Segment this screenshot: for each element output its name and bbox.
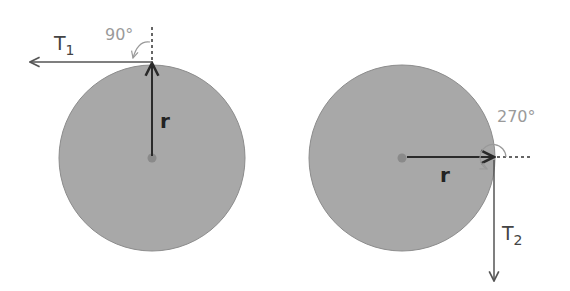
left-radius-label: r	[160, 109, 170, 133]
right-force-label: T2	[501, 222, 523, 248]
right-radius-label: r	[440, 163, 450, 187]
right-center-dot	[398, 154, 407, 163]
right-angle-label: 270°	[497, 107, 536, 126]
left-angle-label: 90°	[105, 25, 133, 44]
left-angle-arc	[133, 42, 150, 58]
right-disk-group: T2 270° r	[309, 65, 536, 281]
left-disk-group: T1 90° r	[30, 24, 245, 251]
torque-diagram: T1 90° r T2 270° r	[0, 0, 570, 291]
left-force-label: T1	[53, 32, 75, 58]
